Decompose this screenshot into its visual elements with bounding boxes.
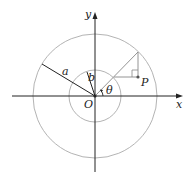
y-axis-arrow-icon: [93, 12, 98, 19]
origin-label: O: [84, 98, 93, 111]
y-axis-label: y: [84, 8, 92, 21]
x-axis-label: x: [176, 98, 183, 111]
radius-b-label: b: [88, 71, 95, 84]
angle-theta-label: θ: [106, 84, 113, 97]
point-p-label: P: [140, 76, 149, 89]
parametric-ellipse-diagram: y x O a b θ P: [0, 0, 189, 181]
angle-ray: [95, 52, 138, 96]
radius-a-label: a: [62, 65, 69, 78]
origin-point: [93, 94, 96, 97]
point-p: [136, 75, 139, 78]
